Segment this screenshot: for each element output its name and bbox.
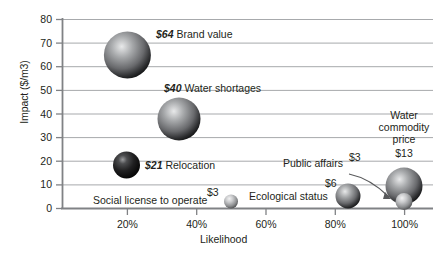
x-tick-label-40: 40% bbox=[177, 218, 217, 230]
x-tick-label-60: 60% bbox=[246, 218, 286, 230]
annotation-water-commodity-line1: Water bbox=[364, 109, 444, 121]
ecological-status-amount: $6 bbox=[325, 177, 337, 189]
bubble-relocation[interactable] bbox=[113, 152, 140, 179]
y-tick-marks bbox=[56, 20, 62, 209]
annotation-relocation: $21 Relocation bbox=[145, 159, 215, 171]
bubble-water-shortages[interactable] bbox=[158, 98, 201, 141]
y-tick-label-80: 80 bbox=[26, 13, 52, 25]
y-tick-label-60: 60 bbox=[26, 60, 52, 72]
annotation-brand-value: $64 Brand value bbox=[156, 28, 233, 40]
bubble-public-affairs[interactable] bbox=[396, 193, 413, 210]
water-shortages-amount: $40 bbox=[164, 82, 182, 94]
annotation-water-shortages: $40 Water shortages bbox=[164, 82, 261, 94]
y-tick-label-30: 30 bbox=[26, 131, 52, 143]
y-tick-label-20: 20 bbox=[26, 155, 52, 167]
relocation-label: Relocation bbox=[163, 159, 216, 171]
relocation-amount: $21 bbox=[145, 159, 163, 171]
annotation-water-commodity-line2: commodity bbox=[364, 121, 444, 133]
social-license-amount: $3 bbox=[207, 186, 219, 198]
x-tick-label-80: 80% bbox=[315, 218, 355, 230]
x-tick-label-20: 20% bbox=[107, 218, 147, 230]
annotation-water-commodity-line3: price bbox=[364, 133, 444, 145]
brand-value-label: Brand value bbox=[174, 28, 233, 40]
x-axis-title: Likelihood bbox=[200, 233, 247, 245]
y-tick-label-0: 0 bbox=[26, 202, 52, 214]
y-tick-label-40: 40 bbox=[26, 108, 52, 120]
y-tick-label-50: 50 bbox=[26, 84, 52, 96]
annotation-public-affairs-label: Public affairs bbox=[283, 157, 343, 169]
water-shortages-label: Water shortages bbox=[182, 82, 262, 94]
x-tick-label-100: 100% bbox=[385, 218, 425, 230]
public-affairs-amount: $3 bbox=[349, 151, 361, 163]
bubble-brand-value[interactable] bbox=[104, 32, 151, 79]
annotation-ecological-status-label: Ecological status bbox=[249, 190, 328, 202]
y-tick-label-70: 70 bbox=[26, 37, 52, 49]
bubble-ecological-status[interactable] bbox=[336, 184, 361, 209]
brand-value-amount: $64 bbox=[156, 28, 174, 40]
annotation-social-license-label: Social license to operate bbox=[93, 194, 207, 206]
x-tick-marks bbox=[127, 209, 404, 216]
water-commodity-amount: $13 bbox=[364, 147, 444, 159]
bubble-chart: Impact ($/m3) Likelihood 80 70 60 50 40 … bbox=[0, 0, 447, 263]
bubble-social-license-to-operate[interactable] bbox=[224, 195, 238, 209]
y-tick-label-10: 10 bbox=[26, 178, 52, 190]
